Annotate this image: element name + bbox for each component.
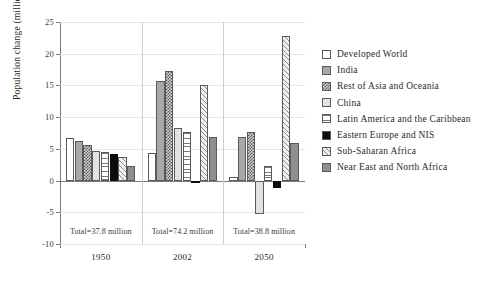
group-separator [223,22,224,244]
bar [273,181,281,189]
group-total-annotation: Total=38.8 million [233,227,295,236]
legend-item-label: Rest of Asia and Oceania [337,81,439,91]
legend-item: Eastern Europe and NIS [322,127,492,143]
bar [200,85,208,181]
y-axis-tick-label: -10 [42,239,54,249]
bar [156,81,164,181]
chart-legend: Developed WorldIndiaRest of Asia and Oce… [322,46,492,176]
legend-swatch-icon [322,82,331,91]
legend-swatch-icon [322,114,331,123]
bar [118,157,126,180]
bar [209,137,217,180]
legend-item: Developed World [322,46,492,62]
bar [165,71,173,180]
group-total-annotation: Total=74.2 million [152,227,214,236]
bar [83,145,91,181]
bar [264,166,272,181]
legend-item-label: Eastern Europe and NIS [337,130,435,140]
gridline [60,244,305,245]
bar [92,151,100,180]
legend-swatch-icon [322,131,331,140]
y-axis-tick [56,244,60,245]
x-axis-category-label: 2050 [255,252,274,262]
bar [101,152,109,181]
legend-item: Rest of Asia and Oceania [322,78,492,94]
legend-item-label: India [337,65,358,75]
bar [282,36,290,181]
y-axis-tick-label: 20 [45,49,54,59]
y-axis-tick-label: 25 [45,17,54,27]
legend-item-label: Developed World [337,49,408,59]
legend-item: Sub-Saharan Africa [322,143,492,159]
y-axis-tick [56,22,60,23]
y-axis-title: Population change (millions) [12,0,22,100]
bar [110,154,118,181]
bar [127,166,135,181]
gridline [60,85,305,86]
y-axis-title-container: Population change (millions) [14,46,28,206]
legend-swatch-icon [322,66,331,75]
bar [247,132,255,181]
y-axis-tick [56,117,60,118]
y-axis-tick-label: 5 [50,144,54,154]
y-axis-tick [56,54,60,55]
legend-swatch-icon [322,98,331,107]
y-axis-tick [56,85,60,86]
y-axis-tick-label: 15 [45,80,54,90]
x-axis-category-label: 2002 [173,252,192,262]
bar [191,181,199,184]
legend-item: Near East and North Africa [322,159,492,175]
gridline [60,54,305,55]
legend-item: India [322,62,492,78]
gridline [60,212,305,213]
y-axis-tick [56,212,60,213]
population-change-bar-chart: Population change (millions) -10-5051015… [0,0,494,281]
x-axis-category-label: 1950 [91,252,110,262]
legend-swatch-icon [322,163,331,172]
legend-item-label: Latin America and the Caribbean [337,114,471,124]
y-axis-tick-label: 10 [45,112,54,122]
y-axis-tick-label: -5 [47,207,54,217]
legend-swatch-icon [322,50,331,59]
gridline [60,117,305,118]
legend-item-label: Sub-Saharan Africa [337,146,416,156]
bar [66,138,74,181]
legend-item: China [322,95,492,111]
y-axis-tick-label: 0 [50,176,54,186]
y-axis-tick [56,149,60,150]
legend-item-label: Near East and North Africa [337,162,447,172]
group-total-annotation: Total=37.8 million [70,227,132,236]
legend-item: Latin America and the Caribbean [322,111,492,127]
group-separator [142,22,143,244]
bar [183,132,191,180]
bar [75,141,83,181]
zero-line [60,181,305,182]
plot-area: -10-50510152025 [60,22,305,244]
bar [238,137,246,181]
legend-swatch-icon [322,147,331,156]
bar [148,153,156,180]
bar [229,177,237,181]
legend-item-label: China [337,98,361,108]
bar [174,128,182,181]
bar [290,143,298,181]
gridline [60,22,305,23]
bar [255,181,263,215]
